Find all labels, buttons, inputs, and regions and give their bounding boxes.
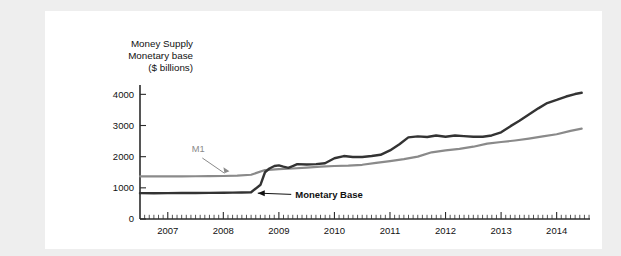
y-tick-label: 3000: [113, 120, 134, 131]
series-line-monetary-base: [140, 93, 582, 193]
y-tick-label: 4000: [113, 89, 134, 100]
chart-title-line-0: Money Supply: [131, 38, 193, 49]
annotation-m1-leader: [202, 158, 224, 173]
x-tick-label: 2014: [546, 225, 567, 236]
y-tick-label: 0: [129, 213, 134, 224]
annotation-m1-arrowhead: [223, 167, 229, 173]
x-tick-label: 2012: [435, 225, 456, 236]
series-line-m1: [140, 129, 582, 177]
chart-title-line-1: Monetary base: [128, 50, 193, 61]
x-tick-label: 2010: [324, 225, 345, 236]
money-supply-line-chart: Money SupplyMonetary base($ billions)010…: [45, 11, 602, 249]
annotation-m1-label: M1: [192, 144, 205, 154]
x-tick-label: 2009: [268, 225, 289, 236]
y-tick-label: 2000: [113, 151, 134, 162]
x-tick-label: 2013: [491, 225, 512, 236]
y-tick-label: 1000: [113, 182, 134, 193]
chart-title-line-2: ($ billions): [148, 62, 193, 73]
annotation-monetary-base-label: Monetary Base: [295, 189, 363, 200]
annotation-monetary-base-arrowhead: [258, 190, 265, 196]
x-tick-label: 2007: [157, 225, 178, 236]
x-tick-label: 2011: [380, 225, 400, 236]
x-tick-label: 2008: [213, 225, 234, 236]
chart-figure-panel: Money SupplyMonetary base($ billions)010…: [45, 11, 602, 249]
